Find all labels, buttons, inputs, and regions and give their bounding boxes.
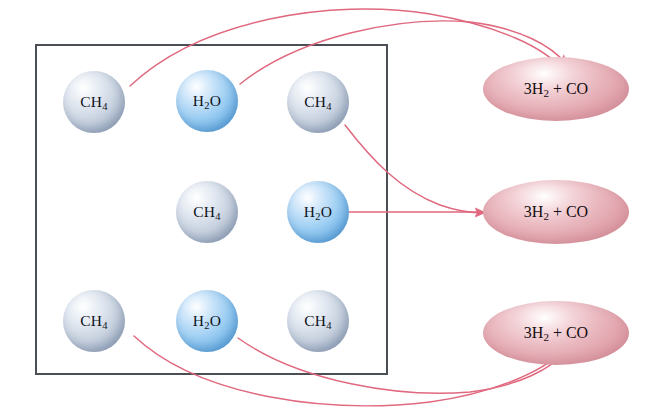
molecule-methane-r6: CH4 xyxy=(63,290,125,352)
molecule-label: CH4 xyxy=(304,93,331,111)
molecule-label: CH4 xyxy=(80,93,107,111)
product-ellipse-p2: 3H2 + CO xyxy=(483,180,629,244)
product-label: 3H2 + CO xyxy=(524,203,588,221)
molecule-methane-r4: CH4 xyxy=(176,181,238,243)
molecule-label: CH4 xyxy=(193,203,220,221)
molecule-label: CH4 xyxy=(304,312,331,330)
product-label: 3H2 + CO xyxy=(524,324,588,342)
molecule-water-r7: H2O xyxy=(176,290,238,352)
reaction-diagram: CH4H2OCH4CH4H2OCH4H2OCH4 3H2 + CO3H2 + C… xyxy=(0,0,661,419)
molecule-methane-r3: CH4 xyxy=(287,71,349,133)
product-ellipse-p1: 3H2 + CO xyxy=(483,57,629,121)
molecule-label: H2O xyxy=(193,92,221,110)
molecule-water-r2: H2O xyxy=(176,70,238,132)
molecule-label: H2O xyxy=(304,203,332,221)
molecule-methane-r1: CH4 xyxy=(63,71,125,133)
molecule-label: H2O xyxy=(193,312,221,330)
molecule-water-r5: H2O xyxy=(287,181,349,243)
molecule-label: CH4 xyxy=(80,312,107,330)
molecule-methane-r8: CH4 xyxy=(287,290,349,352)
product-label: 3H2 + CO xyxy=(524,80,588,98)
product-ellipse-p3: 3H2 + CO xyxy=(483,301,629,365)
